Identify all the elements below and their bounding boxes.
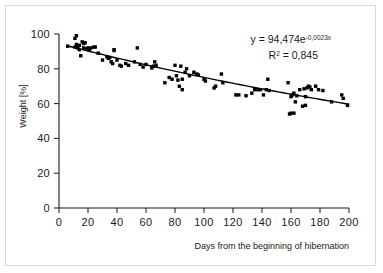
figure-frame: 100 80 60 40 20 0 Weight [%] 0 20 40 60 … [5, 5, 376, 266]
data-point [78, 44, 81, 47]
data-point [185, 67, 188, 70]
x-tick-label-140: 140 [252, 216, 271, 228]
data-point [292, 111, 295, 114]
data-point [289, 111, 292, 114]
x-tick-label-100: 100 [194, 216, 213, 228]
x-tick-label-200: 200 [339, 216, 358, 228]
data-point [253, 88, 256, 91]
x-axis-ticks [59, 208, 349, 213]
data-point [266, 78, 269, 81]
data-point [178, 85, 181, 88]
data-point [294, 100, 297, 103]
x-tick-label-60: 60 [140, 216, 153, 228]
data-point [204, 79, 207, 82]
r-squared-value: = 0,845 [280, 49, 318, 61]
data-point [120, 64, 123, 67]
y-tick-label-100: 100 [31, 28, 50, 40]
data-point-group [66, 34, 349, 116]
y-tick-label-80: 80 [37, 63, 50, 75]
data-point [286, 81, 289, 84]
data-point [340, 93, 343, 96]
x-tick-label-160: 160 [281, 216, 300, 228]
data-point [101, 58, 104, 61]
data-point [179, 64, 182, 67]
y-tick-label-40: 40 [37, 132, 50, 144]
r-squared-annotation: R2 = 0,845 [269, 49, 319, 61]
data-point [244, 94, 247, 97]
regression-equation: y = 94,474e-0,0023x [251, 33, 332, 45]
data-point [170, 78, 173, 81]
data-point [220, 72, 223, 75]
data-point [237, 93, 240, 96]
y-tick-label-20: 20 [37, 167, 50, 179]
x-tick-label-80: 80 [169, 216, 182, 228]
data-point [310, 88, 313, 91]
equation-main: y = 94,474e [251, 33, 306, 45]
data-point [192, 71, 195, 74]
equation-exponent: -0,0023x [306, 34, 332, 41]
data-point [79, 54, 82, 57]
data-point [173, 64, 176, 67]
x-tick-label-120: 120 [223, 216, 242, 228]
data-point [302, 87, 305, 90]
y-axis-ticks [54, 34, 59, 208]
data-point [127, 64, 130, 67]
y-tick-label-0: 0 [44, 202, 50, 214]
data-point [83, 41, 86, 44]
data-point [94, 45, 97, 48]
x-axis-title: Days from the beginning of hibernation [194, 241, 349, 251]
data-point [250, 91, 253, 94]
data-point [89, 46, 92, 49]
data-point [75, 34, 78, 37]
data-point [317, 88, 320, 91]
data-point [175, 74, 178, 77]
scatter-chart: 100 80 60 40 20 0 Weight [%] 0 20 40 60 … [6, 6, 375, 265]
data-point [124, 62, 127, 65]
x-tick-label-180: 180 [310, 216, 329, 228]
data-point [181, 78, 184, 81]
data-point [342, 97, 345, 100]
data-point [181, 88, 184, 91]
data-point [214, 85, 217, 88]
y-axis-title: Weight [%] [18, 84, 28, 127]
data-point [262, 93, 265, 96]
data-point [301, 105, 304, 108]
data-point [163, 81, 166, 84]
y-tick-label-60: 60 [37, 98, 50, 110]
data-point [176, 78, 179, 81]
x-tick-label-0: 0 [56, 216, 62, 228]
data-point [111, 62, 114, 65]
data-point [112, 49, 115, 52]
data-point [136, 46, 139, 49]
data-point [141, 65, 144, 68]
data-point [298, 88, 301, 91]
data-point [234, 93, 237, 96]
data-point [304, 104, 307, 107]
data-point [321, 89, 324, 92]
data-point [153, 60, 156, 63]
data-point [314, 85, 317, 88]
x-tick-label-40: 40 [111, 216, 124, 228]
data-point [168, 76, 171, 79]
x-tick-label-20: 20 [82, 216, 95, 228]
data-point [75, 43, 78, 46]
